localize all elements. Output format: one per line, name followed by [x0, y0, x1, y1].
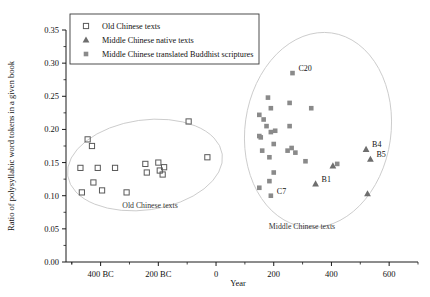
data-point-label: B5	[376, 150, 385, 159]
data-point	[91, 180, 96, 185]
x-tick-label: 0	[214, 269, 218, 279]
data-point	[271, 142, 276, 147]
legend-label: Middle Chinese native texts	[102, 36, 194, 45]
data-point	[303, 159, 308, 164]
data-point	[260, 148, 265, 153]
data-point	[273, 128, 278, 133]
data-point	[269, 106, 274, 111]
legend-label: Middle Chinese translated Buddhist scrip…	[102, 50, 253, 59]
data-point	[258, 135, 263, 140]
y-tick-label: 0.30	[44, 58, 59, 68]
data-point	[99, 188, 104, 193]
x-tick-label: 400 BC	[88, 269, 115, 279]
data-point	[144, 170, 149, 175]
x-tick-label: 600	[383, 269, 396, 279]
data-point	[264, 124, 269, 129]
x-tick-label: 200 BC	[145, 269, 172, 279]
y-axis-title: Ratio of polysyllabic word tokens in a g…	[6, 60, 16, 231]
y-tick-label: 0.35	[44, 25, 59, 35]
data-point-label: C20	[298, 64, 311, 73]
data-point	[257, 185, 262, 190]
data-point	[293, 150, 298, 155]
data-point	[79, 190, 84, 195]
data-point	[112, 165, 117, 170]
data-point	[205, 155, 210, 160]
legend-label: Old Chinese texts	[102, 22, 160, 31]
cluster-annotation: Middle Chinese texts	[269, 222, 335, 231]
y-tick-label: 0.20	[44, 124, 59, 134]
data-point	[267, 179, 272, 184]
chart-canvas: 0.000.050.100.150.200.250.300.35400 BC20…	[0, 0, 430, 297]
data-point	[124, 190, 129, 195]
data-point	[261, 117, 266, 122]
y-tick-label: 0.05	[44, 224, 59, 234]
legend-marker-filled-square	[84, 52, 89, 57]
data-point	[363, 146, 370, 152]
data-point	[290, 71, 295, 76]
x-axis-title: Year	[230, 278, 246, 288]
data-point	[269, 193, 274, 198]
data-point	[95, 165, 100, 170]
data-point	[312, 180, 319, 186]
data-point-label: C7	[277, 187, 286, 196]
data-point	[89, 143, 94, 148]
data-point	[287, 124, 292, 129]
data-point	[335, 162, 340, 167]
data-point	[267, 155, 272, 160]
data-point	[285, 148, 290, 153]
data-point	[266, 95, 271, 100]
data-point	[156, 160, 161, 165]
data-point	[269, 130, 274, 135]
data-point	[271, 170, 276, 175]
x-tick-label: 400	[325, 269, 338, 279]
y-tick-label: 0.00	[44, 257, 59, 267]
data-point	[367, 156, 374, 162]
data-point-label: B4	[372, 140, 381, 149]
scatter-chart-figure: 0.000.050.100.150.200.250.300.35400 BC20…	[0, 0, 430, 297]
data-point	[257, 113, 262, 118]
data-point	[287, 101, 292, 106]
data-point	[309, 106, 314, 111]
data-point	[78, 165, 83, 170]
data-point-label: B1	[322, 175, 331, 184]
y-tick-label: 0.10	[44, 191, 59, 201]
y-tick-label: 0.15	[44, 158, 59, 168]
y-tick-label: 0.25	[44, 91, 59, 101]
data-point	[289, 146, 294, 151]
cluster-annotation: Old Chinese texts	[122, 201, 177, 210]
data-point	[143, 161, 148, 166]
x-tick-label: 200	[267, 269, 280, 279]
